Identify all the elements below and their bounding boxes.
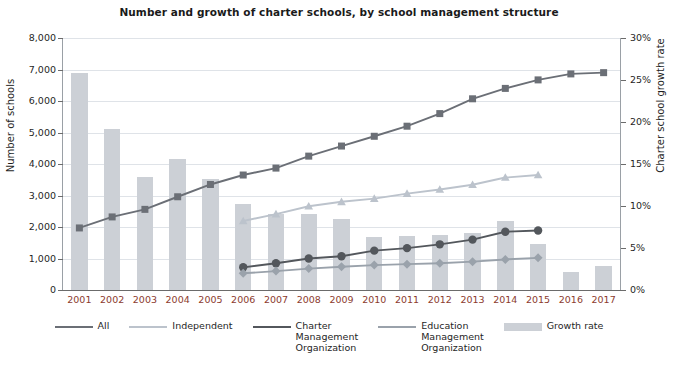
legend-label: Education Management Organization: [421, 320, 484, 353]
y-axis-tick-mark-left: [58, 164, 63, 165]
legend-item[interactable]: Growth rate: [504, 320, 604, 333]
y-axis-tick-mark-left: [58, 70, 63, 71]
y-axis-tick-mark-left: [58, 290, 63, 291]
y-axis-tick-label-left: 3,000: [8, 190, 56, 201]
chart-legend: AllIndependentCharter Management Organiz…: [0, 320, 678, 353]
bar: [202, 179, 218, 290]
line-series-layer: [0, 0, 678, 374]
legend-label: Independent: [172, 320, 232, 331]
data-point-marker: [338, 143, 345, 150]
data-point-marker: [468, 180, 477, 188]
y-axis-tick-mark-left: [58, 38, 63, 39]
legend-item[interactable]: Independent: [129, 320, 232, 333]
gridline: [63, 70, 620, 71]
legend-label: Growth rate: [547, 320, 604, 331]
y-axis-tick-mark-right: [621, 206, 626, 207]
y-axis-tick-mark-right: [621, 80, 626, 81]
y-axis-tick-label-left: 0: [8, 284, 56, 295]
y-axis-tick-mark-right: [621, 38, 626, 39]
bar: [563, 272, 579, 290]
bottom-axis-line: [62, 290, 621, 291]
legend-marker-diamond-icon: [378, 321, 388, 331]
data-point-marker: [240, 172, 247, 179]
legend-swatch-circle-icon: [253, 321, 291, 333]
chart-container: Number and growth of charter schools, by…: [0, 0, 678, 374]
bar: [235, 204, 251, 290]
y-axis-tick-label-right: 5%: [630, 242, 670, 253]
series-line: [243, 258, 538, 273]
data-point-marker: [371, 133, 378, 140]
bar: [301, 214, 317, 290]
data-point-marker: [436, 110, 443, 117]
y-axis-tick-label-left: 1,000: [8, 253, 56, 264]
gridline: [63, 101, 620, 102]
x-axis-tick-label: 2017: [582, 294, 626, 305]
series-line: [79, 73, 603, 228]
series-line: [243, 175, 538, 221]
y-axis-tick-label-left: 4,000: [8, 158, 56, 169]
data-point-marker: [535, 76, 542, 83]
y-axis-tick-label-left: 5,000: [8, 127, 56, 138]
data-point-marker: [305, 153, 312, 160]
y-axis-tick-label-left: 7,000: [8, 64, 56, 75]
data-point-marker: [304, 202, 313, 210]
series-line: [243, 230, 538, 267]
bar: [399, 236, 415, 290]
y-axis-tick-label-right: 15%: [630, 158, 670, 169]
y-axis-tick-label-right: 0%: [630, 284, 670, 295]
bar: [137, 177, 153, 290]
y-axis-tick-label-right: 30%: [630, 32, 670, 43]
y-axis-tick-mark-left: [58, 101, 63, 102]
y-axis-tick-label-right: 25%: [630, 74, 670, 85]
y-axis-tick-label-left: 8,000: [8, 32, 56, 43]
y-axis-tick-mark-right: [621, 290, 626, 291]
legend-label: Charter Management Organization: [296, 320, 359, 353]
bar: [530, 244, 546, 290]
legend-marker-triangle-icon: [129, 321, 139, 331]
y-axis-tick-mark-left: [58, 227, 63, 228]
gridline: [63, 38, 620, 39]
legend-label: All: [98, 320, 110, 331]
legend-item[interactable]: Education Management Organization: [378, 320, 484, 353]
y-axis-label-left: Number of schools: [5, 56, 16, 196]
y-axis-tick-label-right: 10%: [630, 200, 670, 211]
legend-swatch-diamond-icon: [378, 321, 416, 333]
legend-bar-icon: [504, 323, 542, 331]
bar: [432, 235, 448, 290]
data-point-marker: [272, 165, 279, 172]
legend-item[interactable]: All: [55, 320, 110, 333]
y-axis-tick-mark-left: [58, 259, 63, 260]
gridline: [63, 164, 620, 165]
data-point-marker: [501, 173, 510, 181]
legend-swatch-triangle-icon: [129, 321, 167, 333]
bar: [71, 73, 87, 290]
y-axis-tick-mark-left: [58, 196, 63, 197]
y-axis-tick-label-right: 20%: [630, 116, 670, 127]
legend-marker-circle-icon: [253, 321, 263, 331]
chart-title: Number and growth of charter schools, by…: [0, 6, 678, 18]
legend-swatch-square-icon: [55, 321, 93, 333]
data-point-marker: [502, 85, 509, 92]
data-point-marker: [534, 171, 543, 179]
legend-item[interactable]: Charter Management Organization: [253, 320, 359, 353]
bar: [333, 219, 349, 290]
bar: [104, 129, 120, 290]
data-point-marker: [567, 70, 574, 77]
gridline: [63, 133, 620, 134]
legend-marker-square-icon: [55, 321, 65, 331]
bar: [366, 237, 382, 290]
y-axis-tick-label-left: 6,000: [8, 95, 56, 106]
bar: [464, 233, 480, 290]
data-point-marker: [435, 185, 444, 193]
data-point-marker: [404, 123, 411, 130]
bar: [169, 159, 185, 290]
data-point-marker: [337, 197, 346, 205]
y-axis-tick-mark-right: [621, 164, 626, 165]
y-axis-tick-label-left: 2,000: [8, 221, 56, 232]
bar: [595, 266, 611, 290]
bar: [268, 214, 284, 290]
legend-swatch-bar-icon: [504, 321, 542, 333]
bar: [497, 221, 513, 290]
y-axis-tick-mark-right: [621, 122, 626, 123]
y-axis-tick-mark-right: [621, 248, 626, 249]
